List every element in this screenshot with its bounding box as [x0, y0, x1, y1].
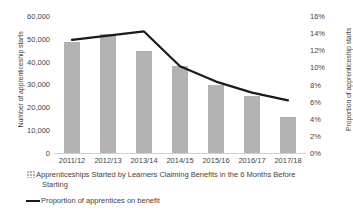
- y-right-tick-6: 4%: [310, 116, 321, 123]
- legend-bars-line1: Apprenticeships Started by Learners Clai…: [36, 170, 295, 179]
- x-axis-label-5: 2016/17: [234, 156, 270, 165]
- chart-legend: Apprenticeships Started by Learners Clai…: [26, 170, 346, 209]
- y-left-tick-0: 60,000: [27, 13, 50, 20]
- bar-swatch-icon: [26, 171, 35, 178]
- y-axis-right-ticks: 16%14%12%10%8%6%4%2%0%: [310, 13, 336, 157]
- legend-bars-text: Apprenticeships Started by Learners Clai…: [36, 170, 295, 190]
- x-axis-label-3: 2014/15: [162, 156, 198, 165]
- y-right-tick-1: 14%: [310, 30, 325, 37]
- y-right-tick-4: 8%: [310, 82, 321, 89]
- y-left-tick-6: 0: [46, 150, 50, 157]
- y-right-tick-5: 6%: [310, 99, 321, 106]
- legend-item-bars: Apprenticeships Started by Learners Clai…: [26, 170, 346, 190]
- line-swatch-icon: [26, 200, 40, 203]
- y-right-tick-7: 2%: [310, 133, 321, 140]
- x-axis-label-1: 2012/13: [90, 156, 126, 165]
- x-axis-line: [54, 153, 306, 154]
- y-left-tick-3: 30,000: [27, 81, 50, 88]
- y-left-tick-5: 10,000: [27, 127, 50, 134]
- y-left-tick-4: 20,000: [27, 104, 50, 111]
- x-axis-label-4: 2015/16: [198, 156, 234, 165]
- legend-line-text: Proportion of apprentices on benefit: [41, 196, 160, 206]
- x-axis-label-0: 2011/12: [54, 156, 90, 165]
- legend-bars-line2: Starting: [36, 180, 295, 190]
- x-axis-label-6: 2017/18: [270, 156, 306, 165]
- x-axis-label-2: 2013/14: [126, 156, 162, 165]
- y-left-tick-1: 50,000: [27, 36, 50, 43]
- plot-area: [54, 17, 306, 153]
- y-right-tick-2: 12%: [310, 47, 325, 54]
- legend-item-line: Proportion of apprentices on benefit: [26, 196, 346, 206]
- line-series: [54, 17, 306, 153]
- chart-container: Number of apprenticeship starts Proporti…: [0, 0, 353, 223]
- y-axis-left-ticks: 60,00050,00040,00030,00020,00010,0000: [20, 13, 50, 157]
- y-right-tick-3: 10%: [310, 64, 325, 71]
- y-right-tick-0: 16%: [310, 13, 325, 20]
- y-right-tick-8: 0%: [310, 150, 321, 157]
- y-left-tick-2: 40,000: [27, 59, 50, 66]
- y-axis-right-title: Proportion of apprenticeship starts: [345, 20, 352, 140]
- x-axis-labels: 2011/122012/132013/142014/152015/162016/…: [54, 156, 306, 165]
- proportion-line: [72, 31, 288, 100]
